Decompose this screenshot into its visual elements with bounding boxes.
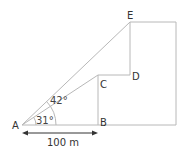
point-label-e: E: [127, 10, 133, 21]
angle-label-42: 42°: [50, 95, 68, 106]
trig-diagram: A B C D E 31° 42° 100 m: [0, 0, 186, 149]
sight-line-ae: [22, 22, 130, 125]
point-label-c: C: [100, 79, 107, 90]
arrowhead-right-icon: [92, 131, 98, 136]
distance-label: 100 m: [47, 137, 79, 148]
point-label-a: A: [12, 120, 19, 131]
point-label-d: D: [132, 71, 140, 82]
angle-label-31: 31°: [36, 115, 54, 126]
point-label-b: B: [100, 117, 107, 128]
arrowhead-left-icon: [22, 131, 28, 136]
